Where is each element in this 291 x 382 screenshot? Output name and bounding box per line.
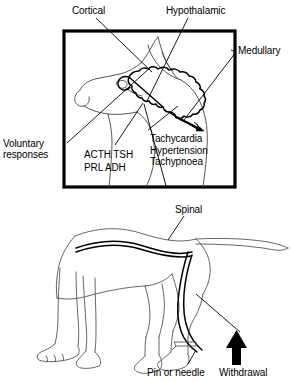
brain-outline	[118, 67, 206, 129]
spinal-cord-line	[76, 241, 192, 257]
label-medullary: Medullary	[238, 45, 280, 56]
label-hormone-list: ACTH TSH PRL ADH	[84, 148, 133, 174]
leader-cortical	[96, 18, 152, 72]
label-withdrawal: Withdrawal	[219, 367, 267, 378]
label-hypothalamic: Hypothalamic	[166, 5, 225, 16]
label-pin-or-needle: Pin or needle	[147, 367, 205, 378]
diagram-canvas	[0, 0, 291, 382]
label-autonomic-responses: Tachycardia Hypertension Tachypnoea	[150, 133, 208, 168]
leader-spinal	[168, 216, 184, 240]
withdrawal-arrow-icon	[226, 330, 247, 365]
label-voluntary-responses: Voluntary responses	[3, 138, 48, 160]
leader-withdrawal	[196, 294, 240, 332]
leader-medullary	[184, 52, 236, 120]
pain-pathway-figure: Cortical Hypothalamic Medullary Voluntar…	[0, 0, 291, 382]
label-cortical: Cortical	[72, 5, 105, 16]
leader-hormones	[115, 103, 143, 145]
leader-autonomic	[148, 106, 178, 130]
leader-voluntary	[67, 66, 152, 143]
label-spinal: Spinal	[175, 204, 202, 215]
dog-body-outline	[37, 229, 288, 374]
spinal-nerve-branch	[178, 252, 202, 352]
